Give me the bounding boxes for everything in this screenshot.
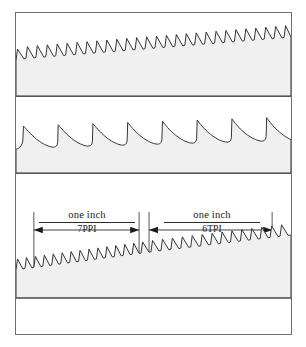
skip-tooth-blade-graphic [16, 97, 291, 173]
band-skip-tooth-blade [16, 97, 291, 173]
band-comparison-blade [16, 174, 291, 309]
dimension-line-left [34, 227, 139, 233]
diagram-frame: one inch 7PPI one inch 6TPI [15, 12, 292, 335]
fine-tooth-blade-graphic [16, 13, 291, 96]
saw-blade-pitch-diagram: one inch 7PPI one inch 6TPI [0, 0, 306, 347]
comparison-blade-graphic [16, 174, 291, 309]
band-fine-tooth-blade [16, 13, 291, 96]
